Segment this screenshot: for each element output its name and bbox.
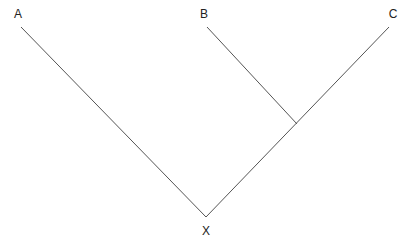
tree-diagram: A B C X [0, 0, 414, 246]
node-label-a: A [14, 8, 22, 20]
tree-lines [0, 0, 414, 246]
node-label-c: C [389, 8, 398, 20]
edge-x-to-a [21, 27, 206, 217]
edge-junction-to-b [207, 27, 297, 124]
node-label-b: B [200, 8, 208, 20]
node-label-x: X [202, 225, 210, 237]
